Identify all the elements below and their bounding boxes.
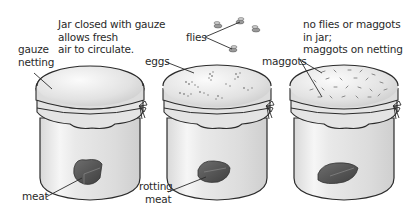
label-eggs: eggs — [145, 55, 169, 68]
jar-1-glass — [40, 118, 140, 200]
fly-icon — [229, 46, 237, 52]
jar-3-description: no flies or maggots in jar; maggots on n… — [303, 18, 403, 56]
label-flies: flies — [186, 31, 206, 44]
leader-flies-lower — [205, 37, 232, 49]
label-maggots: maggots — [262, 55, 307, 68]
leader-flies-upper — [205, 22, 240, 37]
jar-1-description: Jar closed with gauze allows fresh air t… — [58, 18, 165, 56]
jar-3-glass — [294, 118, 394, 200]
fly-icon — [252, 26, 260, 32]
fly-icon — [214, 22, 222, 28]
jar-3 — [290, 65, 401, 200]
jar-2-glass — [167, 118, 267, 200]
label-gauze-netting: gauze netting — [18, 43, 54, 68]
jar-2 — [163, 65, 274, 200]
label-rotting-meat: rotting meat — [139, 180, 173, 205]
flies — [214, 18, 260, 52]
label-meat: meat — [22, 190, 48, 203]
jar-1-meat — [74, 160, 102, 185]
jar-1 — [36, 66, 147, 200]
